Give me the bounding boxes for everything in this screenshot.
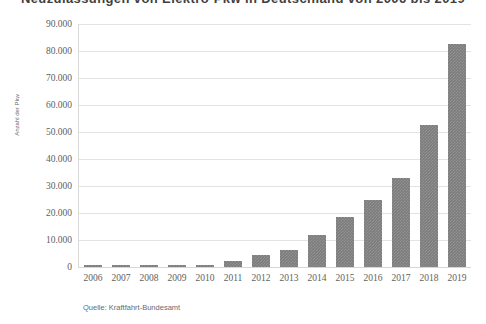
x-tick-label: 2019 <box>443 272 471 284</box>
bar <box>280 250 297 267</box>
bar <box>336 217 353 267</box>
x-tick-label: 2013 <box>275 272 303 284</box>
source-note: Quelle: Kraftfahrt-Bundesamt <box>83 303 180 312</box>
x-tick-label: 2008 <box>135 272 163 284</box>
chart-title: Neuzulassungen von Elektro-Pkw in Deutsc… <box>0 0 486 6</box>
bar <box>392 178 409 267</box>
x-tick-label: 2006 <box>79 272 107 284</box>
x-tick-label: 2015 <box>331 272 359 284</box>
bar <box>224 261 241 267</box>
x-tick-label: 2016 <box>359 272 387 284</box>
x-tick-label: 2014 <box>303 272 331 284</box>
y-tick-label: 40.000 <box>12 154 72 164</box>
x-tick-label: 2009 <box>163 272 191 284</box>
x-tick-label: 2017 <box>387 272 415 284</box>
y-tick-label: 60.000 <box>12 100 72 110</box>
x-tick-label: 2007 <box>107 272 135 284</box>
y-axis-ticks: 90.00080.00070.00060.00050.00040.00030.0… <box>10 24 72 267</box>
bar-series <box>79 24 471 267</box>
bar <box>112 265 129 267</box>
bar <box>140 265 157 267</box>
bar <box>448 44 465 267</box>
y-tick-label: 20.000 <box>12 208 72 218</box>
bar <box>84 265 101 267</box>
y-tick-label: 10.000 <box>12 235 72 245</box>
y-tick-label: 80.000 <box>12 46 72 56</box>
y-tick-label: 70.000 <box>12 73 72 83</box>
x-tick-label: 2011 <box>219 272 247 284</box>
y-tick-label: 90.000 <box>12 19 72 29</box>
y-tick-label: 30.000 <box>12 181 72 191</box>
x-tick-label: 2018 <box>415 272 443 284</box>
x-tick-label: 2010 <box>191 272 219 284</box>
x-tick-label: 2012 <box>247 272 275 284</box>
gridline <box>79 267 471 268</box>
y-tick-label: 50.000 <box>12 127 72 137</box>
bar <box>420 125 437 267</box>
bar <box>308 235 325 267</box>
x-axis-ticks: 2006200720082009201020112012201320142015… <box>79 272 471 286</box>
bar <box>196 265 213 267</box>
bar <box>168 265 185 267</box>
bar <box>252 255 269 267</box>
bar <box>364 200 381 268</box>
y-tick-label: 0 <box>12 262 72 272</box>
chart-container: Neuzulassungen von Elektro-Pkw in Deutsc… <box>0 0 486 324</box>
